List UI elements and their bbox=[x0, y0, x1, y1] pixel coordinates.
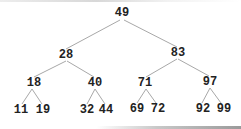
edge-n28-n18 bbox=[34, 61, 66, 77]
edge-n18-n11 bbox=[22, 89, 32, 104]
tree-node-49: 49 bbox=[115, 7, 129, 19]
bottom-border-line bbox=[0, 126, 241, 129]
edge-n97-n99 bbox=[210, 88, 221, 103]
tree-node-72: 72 bbox=[151, 103, 165, 115]
edge-n40-n44 bbox=[95, 89, 105, 104]
edge-n83-n97 bbox=[178, 59, 209, 76]
edge-n28-n40 bbox=[67, 61, 94, 77]
tree-node-44: 44 bbox=[99, 104, 113, 116]
edge-n71-n69 bbox=[137, 89, 146, 103]
edge-n40-n32 bbox=[87, 89, 95, 104]
edge-n83-n71 bbox=[146, 59, 177, 77]
edge-n18-n19 bbox=[32, 89, 42, 104]
tree-node-99: 99 bbox=[217, 103, 231, 115]
tree-node-40: 40 bbox=[88, 77, 102, 89]
tree-node-69: 69 bbox=[130, 103, 144, 115]
tree-node-11: 11 bbox=[14, 104, 28, 116]
tree-node-18: 18 bbox=[27, 77, 41, 89]
tree-node-32: 32 bbox=[80, 104, 94, 116]
edge-n49-n28 bbox=[66, 20, 120, 49]
tree-diagram: 492883184071971119324469729299 bbox=[0, 0, 241, 129]
tree-node-28: 28 bbox=[59, 49, 73, 61]
tree-node-97: 97 bbox=[203, 76, 217, 88]
tree-node-92: 92 bbox=[196, 103, 210, 115]
tree-node-19: 19 bbox=[36, 104, 50, 116]
tree-node-71: 71 bbox=[138, 77, 152, 89]
edge-n97-n92 bbox=[202, 88, 210, 103]
tree-node-83: 83 bbox=[171, 47, 185, 59]
edge-n71-n72 bbox=[146, 89, 156, 103]
edge-n49-n83 bbox=[124, 20, 177, 47]
